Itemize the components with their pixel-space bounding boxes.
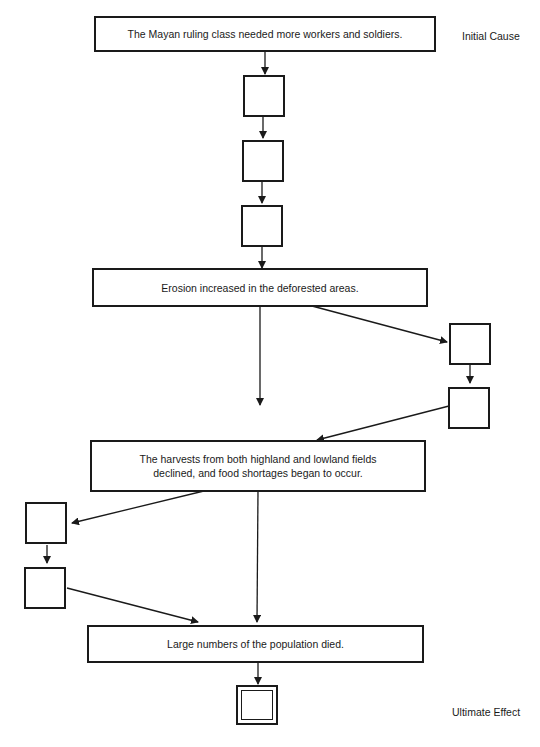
harvests-box: The harvests from both highland and lowl… bbox=[90, 440, 426, 492]
population-box: Large numbers of the population died. bbox=[87, 625, 424, 663]
double-border-inner bbox=[241, 690, 273, 720]
erosion-box: Erosion increased in the deforested area… bbox=[92, 268, 428, 307]
harvests-text-line1: The harvests from both highland and lowl… bbox=[140, 452, 377, 466]
initial-cause-box: The Mayan ruling class needed more worke… bbox=[94, 16, 436, 52]
initial-cause-text: The Mayan ruling class needed more worke… bbox=[128, 27, 403, 41]
empty-box-ultimate-effect[interactable] bbox=[236, 685, 278, 725]
empty-box-chain-2[interactable] bbox=[242, 140, 284, 182]
empty-box-left-1[interactable] bbox=[25, 502, 67, 544]
harvests-text-line2: declined, and food shortages began to oc… bbox=[153, 466, 363, 480]
empty-box-right-1[interactable] bbox=[449, 323, 491, 365]
empty-box-chain-3[interactable] bbox=[241, 205, 283, 247]
empty-box-chain-1[interactable] bbox=[243, 75, 285, 117]
empty-box-right-2[interactable] bbox=[448, 387, 490, 429]
empty-box-left-2[interactable] bbox=[24, 567, 66, 609]
population-text: Large numbers of the population died. bbox=[167, 637, 344, 651]
ultimate-effect-label: Ultimate Effect bbox=[452, 706, 520, 718]
erosion-text: Erosion increased in the deforested area… bbox=[161, 281, 358, 295]
initial-cause-label: Initial Cause bbox=[462, 30, 520, 42]
